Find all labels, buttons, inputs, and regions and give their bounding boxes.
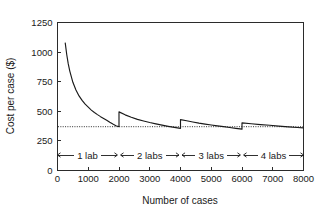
x-tick-label-3000: 3000: [139, 173, 160, 184]
y-axis-title: Cost per case ($): [5, 58, 16, 135]
lab-band-annotations: 1 lab2 labs3 labs4 labs: [58, 150, 304, 161]
x-tick-label-6000: 6000: [231, 173, 252, 184]
lab-band-3: 3 labs: [182, 150, 240, 161]
y-tick-label-1000: 1000: [31, 47, 52, 58]
x-tick-label-8000: 8000: [293, 173, 314, 184]
y-tick-label-0: 0: [47, 165, 52, 176]
chart-canvas: 025050075010001250 010002000300040005000…: [0, 0, 324, 209]
x-tick-label-2000: 2000: [108, 173, 129, 184]
lab-band-label-2: 2 labs: [137, 150, 163, 161]
x-tick-label-7000: 7000: [262, 173, 283, 184]
lab-band-label-4: 4 labs: [261, 150, 287, 161]
x-tick-label-4000: 4000: [170, 173, 191, 184]
lab-band-label-3: 3 labs: [199, 150, 225, 161]
lab-band-label-1: 1 lab: [77, 150, 98, 161]
y-tick-label-750: 750: [37, 76, 53, 87]
y-tick-label-250: 250: [37, 135, 53, 146]
chart-figure: 025050075010001250 010002000300040005000…: [0, 0, 324, 209]
y-axis-tick-labels: 025050075010001250: [31, 17, 52, 176]
x-axis-tick-labels: 010002000300040005000600070008000: [55, 173, 314, 184]
lab-band-4: 4 labs: [244, 150, 304, 161]
x-axis-title: Number of cases: [142, 195, 218, 206]
plot-frame: [58, 23, 304, 171]
lab-band-2: 2 labs: [121, 150, 179, 161]
x-tick-label-1000: 1000: [78, 173, 99, 184]
series-cost-per-case-line: [65, 43, 303, 129]
y-tick-label-500: 500: [37, 106, 53, 117]
lab-band-1: 1 lab: [58, 150, 118, 161]
x-tick-label-0: 0: [55, 173, 60, 184]
data-series-group: [65, 43, 303, 129]
y-tick-label-1250: 1250: [31, 17, 52, 28]
x-tick-label-5000: 5000: [201, 173, 222, 184]
